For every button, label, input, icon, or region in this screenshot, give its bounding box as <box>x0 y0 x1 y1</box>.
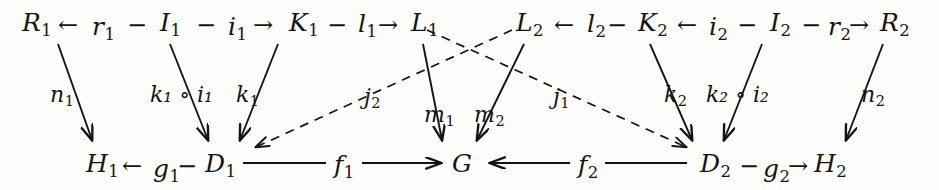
edge-label-k1-circ-i1: k₁ ∘ i₁ <box>150 84 213 106</box>
dash-i2-I2: − <box>737 13 757 37</box>
node-l1[interactable]: l1 <box>358 11 377 40</box>
dash-K1-l1: − <box>327 13 347 37</box>
edge-label-f1: f1 <box>334 152 354 181</box>
arrow-right-i1-K1: → <box>253 13 273 37</box>
arrow-left-K2-i2: ← <box>677 13 697 37</box>
arrow-left-H1-g1: ← <box>122 154 142 178</box>
node-r1[interactable]: r1 <box>92 14 115 43</box>
node-D1[interactable]: D1 <box>205 151 236 180</box>
edge-label-m2: m2 <box>474 104 505 129</box>
dash-D2-g2: − <box>739 154 759 178</box>
node-G[interactable]: G <box>452 151 472 180</box>
diagram-canvas: R1 ← r1 − I1 − i1 → K1 − l1 → L1 L2 ← l2… <box>0 0 939 190</box>
node-r2[interactable]: r2 <box>828 14 851 43</box>
dash-I2-r2: − <box>801 13 821 37</box>
edge-label-k2-circ-i2: k₂ ∘ i₂ <box>706 84 769 106</box>
edge-label-k2: k2 <box>664 84 687 109</box>
node-H1[interactable]: H1 <box>86 151 119 180</box>
arrow-left-L2-l2: ← <box>554 13 574 37</box>
node-D2[interactable]: D2 <box>700 151 731 180</box>
edge-label-j1: j1 <box>553 86 570 111</box>
edge-L2-D1 <box>256 30 512 147</box>
node-I1[interactable]: I1 <box>160 10 181 39</box>
edge-label-f2: f2 <box>578 152 598 181</box>
arrow-right-g2-H2: → <box>788 154 808 178</box>
node-L2[interactable]: L2 <box>516 10 544 39</box>
edge-label-j2: j2 <box>364 86 381 111</box>
node-K1[interactable]: K1 <box>289 10 319 39</box>
node-g2[interactable]: g2 <box>763 156 790 185</box>
arrow-right-l1-L1: → <box>378 13 398 37</box>
node-g1[interactable]: g1 <box>153 156 180 185</box>
dash-g1-D1: − <box>177 154 197 178</box>
edge-label-n2: n2 <box>861 84 885 109</box>
node-R2[interactable]: R2 <box>880 10 910 39</box>
node-L1[interactable]: L1 <box>411 10 439 39</box>
dash-I1-i1: − <box>196 13 216 37</box>
node-i1[interactable]: i1 <box>228 14 247 43</box>
dash-r1-I1: − <box>127 13 147 37</box>
node-K2[interactable]: K2 <box>638 10 668 39</box>
arrow-right-r2-R2: → <box>849 13 869 37</box>
edge-label-n1: n1 <box>50 84 74 109</box>
edge-label-m1: m1 <box>424 104 455 129</box>
node-H2[interactable]: H2 <box>814 151 847 180</box>
arrow-left-R1-r1: ← <box>58 13 78 37</box>
node-i2[interactable]: i2 <box>709 14 728 43</box>
dash-l2-K2: − <box>607 13 627 37</box>
node-R1[interactable]: R1 <box>22 10 52 39</box>
edge-label-k1: k1 <box>236 84 259 109</box>
node-l2[interactable]: l2 <box>587 11 606 40</box>
node-I2[interactable]: I2 <box>770 10 791 39</box>
